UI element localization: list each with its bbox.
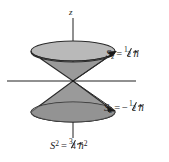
sz-up-label: Sz= 1 2 h	[106, 47, 139, 60]
figure-graphics	[0, 0, 169, 162]
sz-down-fraction: 1 2	[129, 101, 138, 112]
lower-cone-cap-shade	[31, 102, 115, 122]
sz-up-fraction: 1 2	[124, 47, 133, 58]
s-squared-denominator: 4	[72, 143, 76, 151]
s-squared-hbar: h	[78, 141, 84, 152]
sz-down-sign: −	[122, 102, 129, 113]
s-squared-equals: =	[59, 140, 69, 151]
sz-down-equals: =	[112, 102, 122, 113]
z-axis-label: z	[69, 8, 73, 17]
sz-up-hbar: h	[133, 49, 139, 60]
spin-cone-figure: z Sz= 1 2 h Sz=− 1 2 h S2= 3 4 h2	[0, 0, 169, 162]
sz-down-hbar: h	[138, 103, 144, 114]
origin-point	[72, 80, 74, 82]
sz-up-equals: =	[114, 48, 124, 59]
sz-up-denominator: 2	[127, 51, 131, 59]
s-squared-label: S2= 3 4 h2	[50, 139, 87, 152]
s-squared-unit-superscript: 2	[84, 139, 88, 148]
sz-down-label: Sz=− 1 2 h	[104, 101, 144, 114]
sz-down-denominator: 2	[132, 105, 136, 113]
